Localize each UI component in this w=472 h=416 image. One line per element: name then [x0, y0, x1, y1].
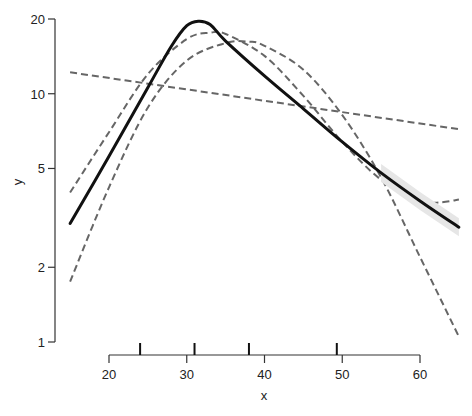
y-tick-label: 5	[38, 161, 45, 176]
cubic-fit-line	[70, 32, 459, 204]
x-axis: 2030405060	[102, 355, 427, 382]
y-tick-label: 20	[31, 12, 45, 27]
y-tick-label: 10	[31, 87, 45, 102]
y-axis: 1251020	[31, 12, 55, 350]
piecewise-fit-line	[70, 21, 459, 227]
chart-svg: 1251020 2030405060 y x	[0, 0, 472, 416]
plot-area	[70, 21, 459, 337]
x-axis-label: x	[261, 388, 268, 403]
x-tick-label: 40	[257, 367, 271, 382]
x-tick-label: 60	[413, 367, 427, 382]
x-tick-label: 20	[102, 367, 116, 382]
y-axis-label: y	[10, 178, 25, 185]
rug-marks	[140, 343, 337, 355]
chart: 1251020 2030405060 y x	[0, 0, 472, 416]
x-tick-label: 50	[335, 367, 349, 382]
y-tick-label: 2	[38, 260, 45, 275]
y-tick-label: 1	[38, 335, 45, 350]
x-tick-label: 30	[180, 367, 194, 382]
